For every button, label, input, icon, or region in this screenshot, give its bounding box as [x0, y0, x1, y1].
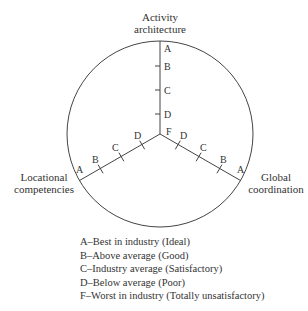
- tick-label-c-global: C: [200, 142, 207, 153]
- ticks-global: [175, 141, 222, 174]
- ticks-activity: [155, 66, 160, 114]
- tick-label-d-global: D: [180, 130, 187, 141]
- tick-label-a-global: A: [237, 164, 245, 175]
- tick-label-a-locational: A: [76, 164, 84, 175]
- axis-label-locational-line2: competencies: [14, 183, 74, 195]
- axis-label-activity-line1: Activity: [142, 11, 179, 23]
- tick-label-d-activity: D: [164, 109, 171, 120]
- center-label-f: F: [166, 126, 172, 137]
- axis-label-locational-line1: Locational: [20, 171, 67, 183]
- legend-item-f: F–Worst in industry (Totally unsatisfact…: [80, 289, 264, 303]
- tick-label-c-locational: C: [112, 142, 119, 153]
- tick-label-a-activity: A: [164, 43, 172, 54]
- axis-label-global-line2: coordination: [248, 183, 304, 195]
- legend: A–Best in industry (Ideal) B–Above avera…: [80, 235, 264, 303]
- tick-label-c-activity: C: [164, 85, 171, 96]
- tick-label-b-locational: B: [92, 154, 99, 165]
- axis-label-activity-line2: architecture: [134, 23, 186, 35]
- axis-label-global-line1: Global: [261, 171, 291, 183]
- legend-item-a: A–Best in industry (Ideal): [80, 235, 264, 249]
- ticks-locational: [98, 141, 145, 174]
- axis-global: [160, 134, 241, 181]
- tick-label-b-global: B: [220, 154, 227, 165]
- legend-item-b: B–Above average (Good): [80, 249, 264, 263]
- legend-item-d: D–Below average (Poor): [80, 276, 264, 290]
- tick-label-b-activity: B: [164, 61, 171, 72]
- tick-label-d-locational: D: [134, 130, 141, 141]
- legend-item-c: C–Industry average (Satisfactory): [80, 262, 264, 276]
